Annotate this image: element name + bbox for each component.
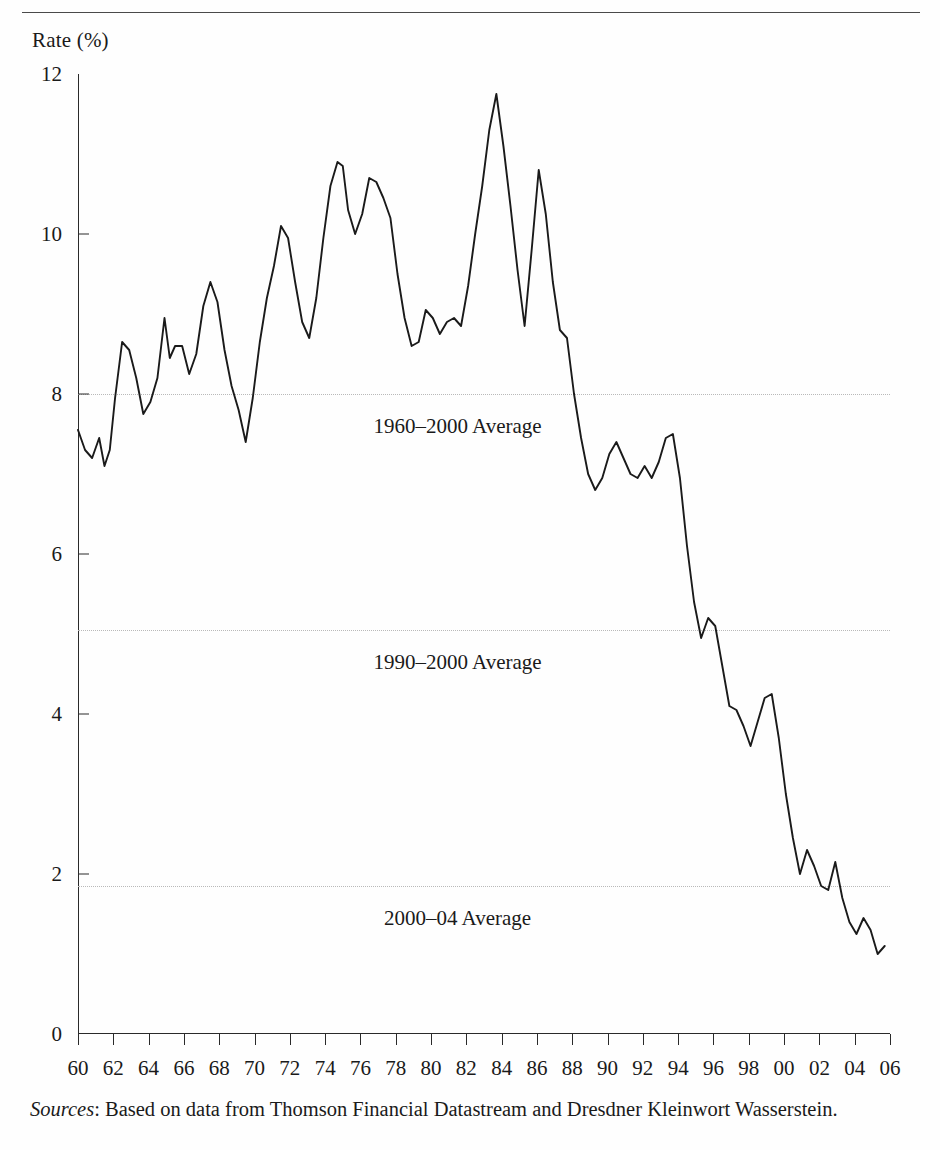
- x-axis-tick-mark: [360, 1034, 361, 1045]
- x-axis-tick-mark: [502, 1034, 503, 1045]
- x-axis-tick-mark: [678, 1034, 679, 1045]
- x-axis-tick-label: 92: [632, 1056, 653, 1081]
- x-axis-tick-label: 86: [526, 1056, 547, 1081]
- top-divider-rule: [22, 12, 920, 13]
- x-axis-tick-label: 66: [173, 1056, 194, 1081]
- x-axis-tick-mark: [396, 1034, 397, 1045]
- x-axis-tick-mark: [749, 1034, 750, 1045]
- x-axis-tick-label: 64: [138, 1056, 159, 1081]
- x-axis-tick-mark: [431, 1034, 432, 1045]
- x-axis-tick-mark: [537, 1034, 538, 1045]
- y-axis-tick-label: 2: [52, 862, 63, 887]
- x-axis-tick-mark: [890, 1034, 891, 1045]
- x-axis-tick-label: 98: [738, 1056, 759, 1081]
- x-axis-tick-mark: [819, 1034, 820, 1045]
- x-axis-tick-label: 04: [844, 1056, 865, 1081]
- x-axis-tick-label: 06: [880, 1056, 901, 1081]
- x-axis-tick-mark: [149, 1034, 150, 1045]
- x-axis-tick-label: 90: [597, 1056, 618, 1081]
- x-axis-tick-mark: [784, 1034, 785, 1045]
- x-axis-tick-label: 88: [562, 1056, 583, 1081]
- x-axis-tick-label: 94: [668, 1056, 689, 1081]
- average-reference-label: 1990–2000 Average: [373, 650, 541, 675]
- x-axis-tick-label: 68: [209, 1056, 230, 1081]
- y-axis-caption: Rate (%): [32, 28, 109, 53]
- data-line-layer: [78, 74, 890, 1034]
- average-reference-label: 2000–04 Average: [384, 906, 531, 931]
- x-axis-tick-mark: [466, 1034, 467, 1045]
- x-axis-tick-label: 80: [421, 1056, 442, 1081]
- x-axis-tick-mark: [643, 1034, 644, 1045]
- x-axis-tick-label: 70: [244, 1056, 265, 1081]
- x-axis-tick-mark: [184, 1034, 185, 1045]
- sources-text: : Based on data from Thomson Financial D…: [94, 1098, 837, 1120]
- x-axis-tick-mark: [113, 1034, 114, 1045]
- x-axis-tick-mark: [255, 1034, 256, 1045]
- average-reference-label: 1960–2000 Average: [373, 414, 541, 439]
- x-axis-tick-mark: [219, 1034, 220, 1045]
- x-axis-tick-label: 62: [103, 1056, 124, 1081]
- x-axis-tick-label: 76: [350, 1056, 371, 1081]
- x-axis-tick-label: 72: [279, 1056, 300, 1081]
- x-axis-tick-label: 74: [315, 1056, 336, 1081]
- x-axis-tick-mark: [572, 1034, 573, 1045]
- y-axis-tick-label: 0: [52, 1022, 63, 1047]
- figure-page: Rate (%) 024681012 606264666870727476788…: [0, 0, 940, 1150]
- y-axis-tick-label: 8: [52, 382, 63, 407]
- x-axis-tick-label: 96: [703, 1056, 724, 1081]
- x-axis-tick-mark: [290, 1034, 291, 1045]
- x-axis-tick-label: 60: [68, 1056, 89, 1081]
- x-axis-tick-label: 82: [456, 1056, 477, 1081]
- x-axis-tick-mark: [608, 1034, 609, 1045]
- x-axis-tick-label: 02: [809, 1056, 830, 1081]
- x-axis-tick-label: 84: [491, 1056, 512, 1081]
- y-axis-tick-label: 6: [52, 542, 63, 567]
- sources-keyword: Sources: [30, 1098, 94, 1120]
- x-axis-tick-mark: [855, 1034, 856, 1045]
- y-axis-tick-label: 10: [41, 222, 62, 247]
- x-axis-tick-label: 78: [385, 1056, 406, 1081]
- y-axis-tick-label: 12: [41, 62, 62, 87]
- x-axis-tick-mark: [325, 1034, 326, 1045]
- y-axis-tick-label: 4: [52, 702, 63, 727]
- x-axis-tick-mark: [713, 1034, 714, 1045]
- sources-note: Sources: Based on data from Thomson Fina…: [30, 1098, 838, 1121]
- x-axis-tick-mark: [78, 1034, 79, 1045]
- series-rate-line: [78, 94, 885, 954]
- plot-area: 024681012 606264666870727476788082848688…: [78, 74, 890, 1034]
- x-axis-tick-label: 00: [774, 1056, 795, 1081]
